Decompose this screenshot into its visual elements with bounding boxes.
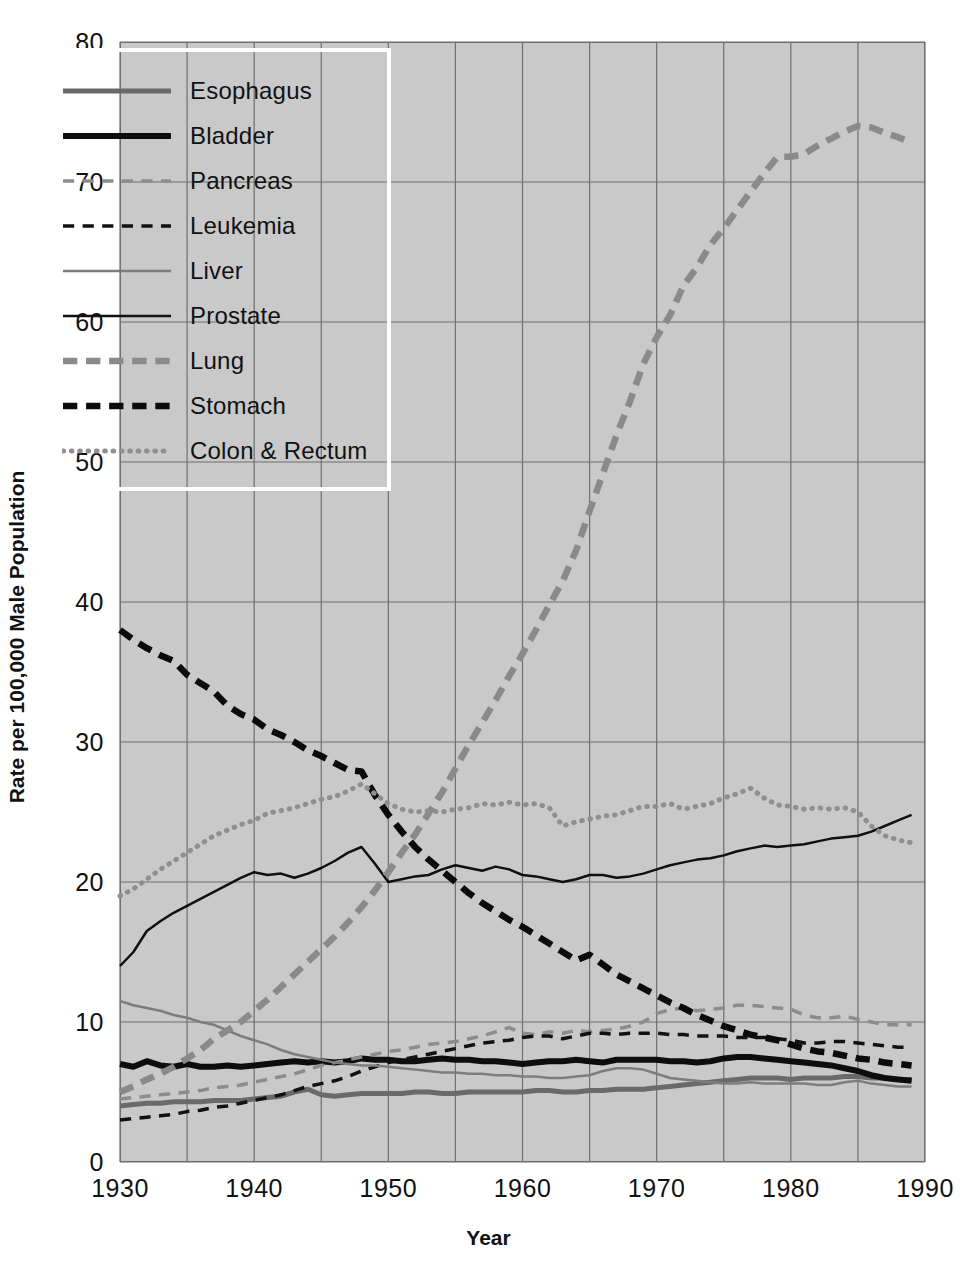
series-line-stomach [120, 630, 912, 1065]
y-tick-40: 40 [0, 588, 104, 617]
legend-label: Bladder [190, 122, 274, 150]
y-tick-30: 30 [0, 728, 104, 757]
y-tick-0: 0 [0, 1148, 104, 1177]
cancer-mortality-line-chart: Rate per 100,000 Male Population 0102030… [0, 0, 977, 1274]
legend-item-leukemia[interactable]: Leukemia [40, 203, 387, 248]
legend-item-bladder[interactable]: Bladder [40, 113, 387, 158]
legend-item-stomach[interactable]: Stomach [40, 383, 387, 428]
y-tick-10: 10 [0, 1008, 104, 1037]
legend-item-liver[interactable]: Liver [40, 248, 387, 293]
legend-swatch-icon [62, 219, 172, 233]
series-line-prostate [120, 815, 912, 966]
series-line-esophagus [120, 1077, 912, 1106]
x-tick-1960: 1960 [494, 1174, 552, 1203]
x-tick-1990: 1990 [896, 1174, 954, 1203]
legend-item-prostate[interactable]: Prostate [40, 293, 387, 338]
legend-label: Esophagus [190, 77, 312, 105]
x-tick-1940: 1940 [225, 1174, 283, 1203]
legend-swatch-icon [62, 399, 172, 413]
x-tick-1930: 1930 [91, 1174, 149, 1203]
legend-label: Stomach [190, 392, 286, 420]
legend-label: Pancreas [190, 167, 293, 195]
y-tick-20: 20 [0, 868, 104, 897]
legend-label: Colon & Rectum [190, 437, 368, 465]
legend-swatch-icon [62, 354, 172, 368]
legend-label: Leukemia [190, 212, 296, 240]
legend-swatch-icon [62, 129, 172, 143]
legend-item-pancreas[interactable]: Pancreas [40, 158, 387, 203]
legend-label: Prostate [190, 302, 281, 330]
x-axis-label: Year [0, 1226, 977, 1250]
legend: EsophagusBladderPancreasLeukemiaLiverPro… [36, 48, 391, 491]
legend-swatch-icon [62, 444, 172, 458]
legend-item-colon-rectum[interactable]: Colon & Rectum [40, 428, 387, 473]
legend-swatch-icon [62, 174, 172, 188]
x-tick-1970: 1970 [628, 1174, 686, 1203]
x-tick-1980: 1980 [762, 1174, 820, 1203]
legend-item-esophagus[interactable]: Esophagus [40, 68, 387, 113]
legend-label: Lung [190, 347, 244, 375]
series-line-pancreas [120, 1005, 912, 1099]
legend-swatch-icon [62, 84, 172, 98]
legend-item-lung[interactable]: Lung [40, 338, 387, 383]
legend-swatch-icon [62, 264, 172, 278]
x-tick-1950: 1950 [360, 1174, 418, 1203]
legend-label: Liver [190, 257, 243, 285]
legend-swatch-icon [62, 309, 172, 323]
